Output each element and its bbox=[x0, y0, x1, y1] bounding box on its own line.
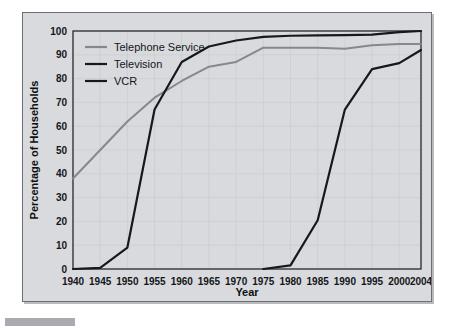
x-axis-tick-label: 1950 bbox=[116, 276, 139, 287]
legend-label: VCR bbox=[114, 75, 137, 87]
scan-artifact-bar bbox=[5, 318, 75, 326]
x-axis-tick-label: 1980 bbox=[279, 276, 302, 287]
x-axis-tick-label: 1955 bbox=[143, 276, 166, 287]
y-axis-tick-label: 80 bbox=[56, 73, 68, 84]
x-axis-tick-label: 1945 bbox=[89, 276, 112, 287]
x-axis-title: Year bbox=[235, 286, 259, 298]
y-axis-tick-label: 70 bbox=[56, 97, 68, 108]
x-axis-tick-label: 1940 bbox=[62, 276, 85, 287]
x-axis-tick-label: 2004 bbox=[410, 276, 431, 287]
y-axis-tick-label: 30 bbox=[56, 192, 68, 203]
x-axis-tick-label: 1995 bbox=[361, 276, 384, 287]
figure-background bbox=[23, 13, 431, 301]
y-axis-tick-label: 10 bbox=[56, 240, 68, 251]
y-axis-tick-label: 100 bbox=[50, 26, 67, 37]
x-axis-tick-label: 1985 bbox=[307, 276, 330, 287]
x-axis-tick-label: 1960 bbox=[171, 276, 194, 287]
y-axis-tick-label: 20 bbox=[56, 216, 68, 227]
legend-label: Telephone Service bbox=[114, 41, 205, 53]
x-axis-tick-label: 2000 bbox=[388, 276, 411, 287]
y-axis-tick-label: 50 bbox=[56, 145, 68, 156]
y-axis-tick-label: 40 bbox=[56, 168, 68, 179]
line-chart: 0102030405060708090100 19401945195019551… bbox=[23, 13, 431, 301]
chart-figure-frame: 0102030405060708090100 19401945195019551… bbox=[22, 12, 432, 302]
y-axis-tick-label: 90 bbox=[56, 49, 68, 60]
y-axis-tick-label: 0 bbox=[61, 264, 67, 275]
legend-label: Television bbox=[114, 58, 162, 70]
x-axis-tick-label: 1990 bbox=[334, 276, 357, 287]
y-axis-title: Percentage of Households bbox=[28, 81, 40, 220]
y-axis-tick-label: 60 bbox=[56, 121, 68, 132]
x-axis-tick-label: 1965 bbox=[198, 276, 221, 287]
